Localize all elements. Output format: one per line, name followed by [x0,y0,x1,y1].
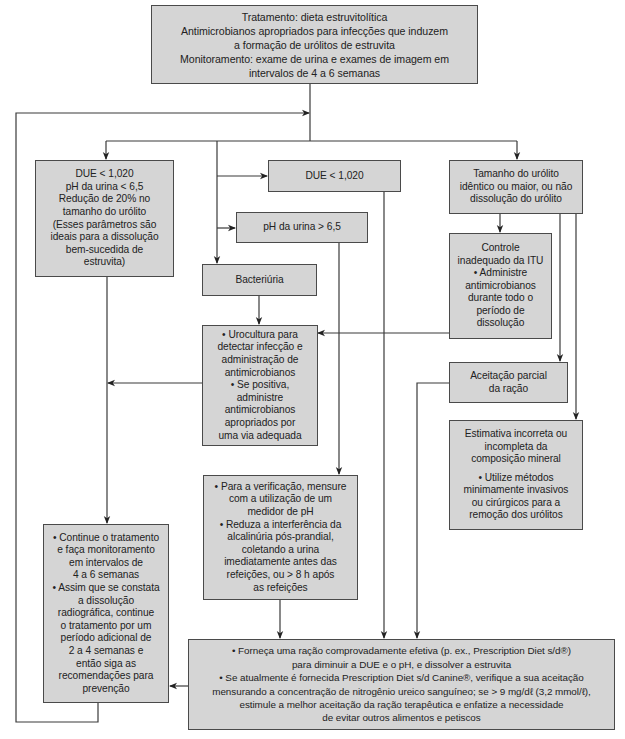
uti-control-text: Controle inadequado da ITU • Administre … [458,242,544,330]
urine-ph-text: pH da urina > 6,5 [263,221,341,234]
ph-verification-text: • Para a verificação, mensure com a util… [215,481,347,594]
effective-diet-text: • Forneça uma ração comprovadamente efet… [212,644,590,724]
partial-acceptance-text: Aceitação parcial da ração [470,370,547,395]
urine-ph-box: pH da urina > 6,5 [236,212,368,243]
mineral-estimate-box: Estimativa incorreta ou incompleta da co… [449,420,583,530]
urine-culture-text: • Urocultura para detectar infecção e ad… [217,329,302,442]
uti-control-box: Controle inadequado da ITU • Administre … [449,233,552,339]
treatment-text: Tratamento: dieta estruvitolítica Antimi… [180,10,449,80]
arrow-acceptance-to-final [417,383,449,638]
mineral-estimate-bullet: • Utilize métodos minimamente invasivos … [464,472,569,522]
bacteriuria-box: Bacteriúria [202,264,317,296]
continue-treatment-text: • Continue o tratamento e faça monitoram… [52,532,159,696]
ideal-parameters-box: DUE < 1,020 pH da urina < 6,5 Redução de… [35,160,174,277]
flowchart: Tratamento: dieta estruvitolítica Antimi… [0,0,625,739]
ph-verification-box: • Para a verificação, mensure com a util… [203,475,358,600]
treatment-box: Tratamento: dieta estruvitolítica Antimi… [151,5,478,84]
bacteriuria-text: Bacteriúria [235,274,283,287]
due-box: DUE < 1,020 [268,160,401,192]
ideal-parameters-text: DUE < 1,020 pH da urina < 6,5 Redução de… [50,168,158,269]
urolith-size-box: Tamanho do urólito idêntico ou maior, ou… [449,160,583,214]
continue-treatment-box: • Continue o tratamento e faça monitoram… [43,524,169,703]
due-text: DUE < 1,020 [305,170,363,183]
mineral-estimate-heading: Estimativa incorreta ou incompleta da co… [465,428,567,466]
partial-acceptance-box: Aceitação parcial da ração [449,362,568,403]
urine-culture-box: • Urocultura para detectar infecção e ad… [202,325,318,446]
effective-diet-box: • Forneça uma ração comprovadamente efet… [188,639,615,730]
urolith-size-text: Tamanho do urólito idêntico ou maior, ou… [460,168,573,206]
